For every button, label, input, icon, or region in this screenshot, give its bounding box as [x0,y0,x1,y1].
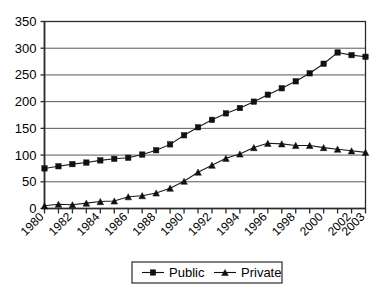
series-markers [41,50,369,209]
datapoint-public-1990 [181,133,186,138]
datapoint-public-1985 [112,156,117,161]
legend-label-private: Private [241,265,281,280]
x-tick-label-1980: 1980 [18,209,47,238]
datapoint-public-1982 [70,161,75,166]
datapoint-public-2001 [335,50,340,55]
line-chart: 050100150200250300350 198019821984198619… [0,0,392,293]
y-axis-tick-labels: 050100150200250300350 [15,14,37,216]
x-tick-label-1994: 1994 [213,209,242,238]
datapoint-public-1998 [293,79,298,84]
datapoint-public-1991 [195,125,200,130]
datapoint-public-2003 [363,54,368,59]
datapoint-public-1981 [56,164,61,169]
legend-marker-square-public [150,270,155,275]
y-tick-label-350: 350 [15,14,37,29]
x-tick-label-1996: 1996 [241,209,270,238]
datapoint-public-1997 [279,86,284,91]
datapoint-private-1993 [223,155,230,161]
plot-area-rect [45,22,366,209]
x-tick-label-1992: 1992 [185,209,214,238]
datapoint-public-1992 [209,117,214,122]
datapoint-public-1993 [223,111,228,116]
y-tick-label-100: 100 [15,148,37,163]
datapoint-public-1988 [153,148,158,153]
datapoint-private-1989 [167,185,174,191]
series-line-private [45,143,366,206]
plot-area-border [45,22,366,209]
chart-legend: PublicPrivate [132,262,282,283]
datapoint-public-1983 [84,160,89,165]
x-tick-label-1984: 1984 [74,209,103,238]
y-tick-label-150: 150 [15,121,37,136]
chart-container: 050100150200250300350 198019821984198619… [0,0,392,293]
datapoint-public-1995 [251,99,256,104]
datapoint-private-1992 [209,162,216,168]
datapoint-public-1984 [98,158,103,163]
datapoint-public-1999 [307,71,312,76]
x-tick-label-1986: 1986 [102,209,131,238]
y-gridlines [45,22,366,182]
datapoint-public-1987 [139,152,144,157]
y-tick-label-200: 200 [15,94,37,109]
x-tick-label-1990: 1990 [157,209,186,238]
x-tick-label-1982: 1982 [46,209,75,238]
legend-label-public: Public [169,265,205,280]
datapoint-public-2002 [349,52,354,57]
datapoint-public-1980 [42,166,47,171]
datapoint-private-1990 [181,178,188,184]
y-tick-label-250: 250 [15,67,37,82]
x-axis-tick-labels: 1980198219841986198819901992199419961998… [18,209,368,238]
datapoint-public-1986 [126,155,131,160]
series-lines [45,52,366,205]
datapoint-public-1996 [265,92,270,97]
series-line-public [45,52,366,168]
datapoint-private-1995 [251,144,258,150]
y-tick-label-300: 300 [15,41,37,56]
datapoint-public-1989 [167,142,172,147]
y-tick-label-50: 50 [22,174,36,189]
datapoint-private-1994 [237,151,244,157]
x-tick-label-1998: 1998 [269,209,298,238]
datapoint-public-2000 [321,61,326,66]
x-tick-label-2000: 2000 [297,209,326,238]
x-tick-label-1988: 1988 [129,209,158,238]
datapoint-private-1991 [195,169,202,175]
datapoint-public-1994 [237,105,242,110]
